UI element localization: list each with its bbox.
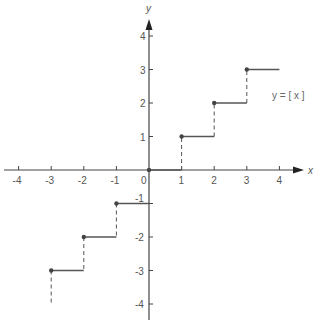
closed-point-dot — [82, 235, 86, 239]
function-equation-label: y = [ x ] — [272, 90, 305, 101]
y-tick-label: 1 — [140, 132, 146, 143]
y-axis-arrow-icon — [146, 19, 153, 30]
closed-point-dot — [114, 201, 118, 205]
x-tick-label: 4 — [276, 175, 282, 186]
y-tick-label: 4 — [140, 31, 146, 42]
y-tick-label: 3 — [140, 65, 146, 76]
x-tick-label: 3 — [244, 175, 250, 186]
y-tick-label: -3 — [135, 266, 144, 277]
closed-point-dot — [147, 168, 151, 172]
y-tick-label: 2 — [140, 98, 146, 109]
step-function-chart: -4-3-2-101234-4-3-2-11234 x y y = [ x ] — [0, 0, 314, 323]
x-tick-label: -4 — [13, 175, 22, 186]
y-axis-label: y — [145, 3, 152, 14]
x-axis-arrow-icon — [293, 167, 304, 174]
x-tick-label: 2 — [211, 175, 217, 186]
closed-point-dot — [245, 67, 249, 71]
y-tick-label: -4 — [135, 299, 144, 310]
x-tick-label: -2 — [78, 175, 87, 186]
x-tick-label: 1 — [179, 175, 185, 186]
closed-point-dot — [212, 101, 216, 105]
y-tick-label: -1 — [135, 193, 144, 204]
x-tick-label: -3 — [45, 175, 54, 186]
x-tick-label: -1 — [110, 175, 119, 186]
closed-point-dot — [49, 268, 53, 272]
closed-point-dot — [179, 134, 183, 138]
x-tick-label: 0 — [141, 175, 147, 186]
y-tick-label: -2 — [135, 232, 144, 243]
x-axis-label: x — [307, 165, 314, 176]
